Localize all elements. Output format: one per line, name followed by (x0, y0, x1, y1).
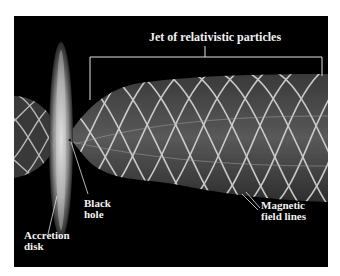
jet-title: Jet of relativistic particles (149, 32, 281, 43)
diagram-panel: Jet of relativistic particles Black hole… (14, 16, 328, 267)
accretion-disk-label: Accretion disk (24, 230, 70, 252)
relativistic-jet (54, 71, 328, 214)
magnetic-field-lines-label: Magnetic field lines (261, 200, 306, 222)
black-hole-label: Black hole (84, 198, 111, 220)
field-lines-label-line2: field lines (261, 211, 306, 222)
black-hole-marker (68, 138, 71, 141)
accretion-disk-label-line2: disk (24, 241, 70, 252)
black-hole-label-line2: hole (84, 209, 111, 220)
